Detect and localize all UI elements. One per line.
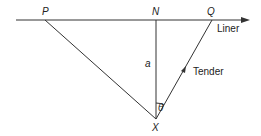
label-liner: Liner <box>217 23 240 34</box>
label-n: N <box>152 6 160 17</box>
label-theta: θ <box>158 102 164 113</box>
label-tender: Tender <box>193 66 224 77</box>
liner-tender-diagram: P N Q Liner a Tender θ X <box>0 0 261 136</box>
label-p: P <box>42 6 49 17</box>
tender-arrowhead-icon <box>181 66 186 73</box>
label-a: a <box>145 58 151 69</box>
label-x: X <box>151 122 159 133</box>
liner-arrowhead-icon <box>241 17 250 23</box>
line-px <box>45 20 156 119</box>
label-q: Q <box>207 6 215 17</box>
